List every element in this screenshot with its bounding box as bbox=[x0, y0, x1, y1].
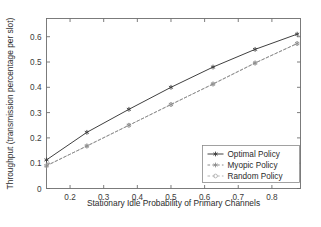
y-tick-label: 0 bbox=[37, 185, 42, 194]
legend-label: Random Policy bbox=[228, 172, 284, 181]
y-tick-label: 0.4 bbox=[30, 83, 42, 92]
y-tick-label: 0.6 bbox=[30, 33, 42, 42]
data-point-marker bbox=[211, 65, 215, 70]
legend-label: Optimal Policy bbox=[228, 150, 281, 159]
y-tick-label: 0.5 bbox=[30, 58, 42, 67]
y-tick-label: 0.2 bbox=[30, 134, 42, 143]
data-point-marker bbox=[44, 158, 48, 163]
data-point-marker bbox=[169, 85, 173, 90]
y-tick-label: 0.3 bbox=[30, 109, 42, 118]
x-tick-label: 0.2 bbox=[64, 193, 76, 202]
x-axis-title: Stationary Idle Probability of Primary C… bbox=[87, 198, 260, 208]
series-optimal-policy bbox=[44, 32, 299, 163]
data-point-marker bbox=[85, 130, 89, 135]
x-tick-label: 0.8 bbox=[266, 193, 278, 202]
legend-label: Myopic Policy bbox=[228, 161, 279, 170]
legend[interactable]: Optimal PolicyMyopic PolicyRandom Policy bbox=[203, 146, 300, 183]
data-point-marker bbox=[127, 107, 131, 112]
y-tick-label: 0.1 bbox=[30, 159, 42, 168]
line-chart: 0.20.30.40.50.60.70.800.10.20.30.40.50.6… bbox=[0, 0, 321, 227]
figure-container: 0.20.30.40.50.60.70.800.10.20.30.40.50.6… bbox=[0, 0, 321, 227]
y-axis-title: Throughput (transmission percentage per … bbox=[5, 17, 15, 189]
series-line bbox=[47, 34, 298, 160]
